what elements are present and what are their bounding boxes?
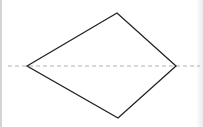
kite-diagram (0, 0, 203, 127)
